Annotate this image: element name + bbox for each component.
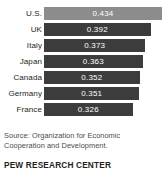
bar-category-label: Canada xyxy=(0,71,42,84)
bar-track: 0.434 xyxy=(44,7,162,20)
bar-category-label: Japan xyxy=(0,55,42,68)
bar-row: Japan 0.363 xyxy=(0,55,162,68)
bar-category-label: Germany xyxy=(0,87,42,100)
bar-track: 0.363 xyxy=(44,55,162,68)
bar-value-label: 0.434 xyxy=(92,7,113,20)
bar-chart-plot-area: U.S. 0.434 UK 0.392 Italy 0.373 xyxy=(0,7,162,119)
bar-value-label: 0.373 xyxy=(84,39,105,52)
bar-row: UK 0.392 xyxy=(0,23,162,36)
bar-chart-figure: U.S. 0.434 UK 0.392 Italy 0.373 xyxy=(0,0,162,175)
bar-category-label: UK xyxy=(0,23,42,36)
bar-row: Germany 0.351 xyxy=(0,87,162,100)
bar-category-label: U.S. xyxy=(0,7,42,20)
bar-track: 0.392 xyxy=(44,23,162,36)
bar-segment: 0.351 xyxy=(44,87,139,100)
bar-track: 0.373 xyxy=(44,39,162,52)
bar-row: Canada 0.352 xyxy=(0,71,162,84)
bar-segment: 0.352 xyxy=(44,71,140,84)
bar-segment: 0.434 xyxy=(44,7,162,20)
bar-value-label: 0.326 xyxy=(78,103,99,116)
source-note: Source: Organization for Economic Cooper… xyxy=(4,131,160,151)
bar-row: France 0.326 xyxy=(0,103,162,116)
bar-row: Italy 0.373 xyxy=(0,39,162,52)
bar-value-label: 0.351 xyxy=(81,87,102,100)
bar-segment: 0.392 xyxy=(44,23,151,36)
bar-category-label: Italy xyxy=(0,39,42,52)
bar-segment: 0.326 xyxy=(44,103,133,116)
bar-row: U.S. 0.434 xyxy=(0,7,162,20)
pew-research-center-brand: PEW RESEARCH CENTER xyxy=(4,160,111,170)
bar-value-label: 0.392 xyxy=(87,23,108,36)
bar-value-label: 0.352 xyxy=(81,71,102,84)
bar-track: 0.326 xyxy=(44,103,162,116)
bar-value-label: 0.363 xyxy=(83,55,104,68)
bar-category-label: France xyxy=(0,103,42,116)
bar-track: 0.352 xyxy=(44,71,162,84)
bar-segment: 0.373 xyxy=(44,39,145,52)
bar-track: 0.351 xyxy=(44,87,162,100)
bar-segment: 0.363 xyxy=(44,55,143,68)
